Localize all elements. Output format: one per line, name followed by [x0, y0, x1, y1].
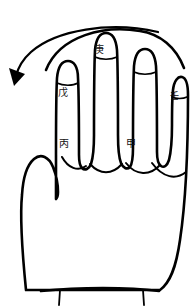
hand-outline-path [21, 33, 188, 290]
label-palm-ring-base-jia: 甲 [126, 139, 136, 149]
index-nail-line [57, 83, 78, 85]
ring-nail-line [134, 72, 156, 74]
fingernail-lines-group [57, 57, 187, 99]
web-arc-middle-ring [90, 164, 122, 172]
knuckle-top-arc [46, 29, 184, 70]
wrist-tick-left [59, 290, 60, 305]
middle-nail-line [95, 57, 117, 59]
label-index-finger-wu: 戊 [58, 88, 68, 98]
web-arc-index-middle [62, 157, 86, 169]
label-pinky-finger-ren: 壬 [169, 91, 178, 100]
wrist-ticks-group [59, 290, 144, 305]
hand-diagram: 戊 庚 壬 丙 甲 [0, 0, 192, 307]
label-palm-index-base-bing: 丙 [59, 139, 69, 149]
hand-outline-group [21, 29, 188, 291]
web-arc-pinky-edge [152, 163, 186, 177]
wrist-tick-right [143, 290, 144, 305]
label-middle-finger-geng: 庚 [94, 45, 104, 55]
